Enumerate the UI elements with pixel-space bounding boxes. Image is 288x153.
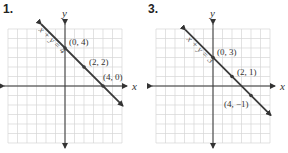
point-label: (0, 3) [217,47,237,57]
point-label: (4, −1) [224,99,249,109]
coordinate-plane-3: xyx + y = 3(0, 3)(2, 1)(4, −1) [144,0,288,153]
axes [4,24,127,148]
y-axis-label: y [209,7,215,19]
plotted-point [101,84,105,88]
coordinate-plane-1: xyx + y = 4(0, 4)(2, 2)(4, 0) [0,0,144,153]
graph-panel-1: 1. xyx + y = 4(0, 4)(2, 2)(4, 0) [0,0,144,153]
plotted-point [230,75,234,79]
point-label: (2, 2) [89,57,109,67]
plotted-point [82,65,86,69]
point-label: (2, 1) [237,67,257,77]
y-axis-label: y [61,7,67,19]
plotted-point [211,56,215,60]
point-label: (4, 0) [103,72,123,82]
axes [152,24,275,148]
x-axis-label: x [279,80,285,92]
x-axis-label: x [131,80,137,92]
point-label: (0, 4) [69,37,89,47]
plotted-point [63,46,67,50]
plotted-point [249,94,253,98]
graph-panel-3: 3. xyx + y = 3(0, 3)(2, 1)(4, −1) [144,0,288,153]
